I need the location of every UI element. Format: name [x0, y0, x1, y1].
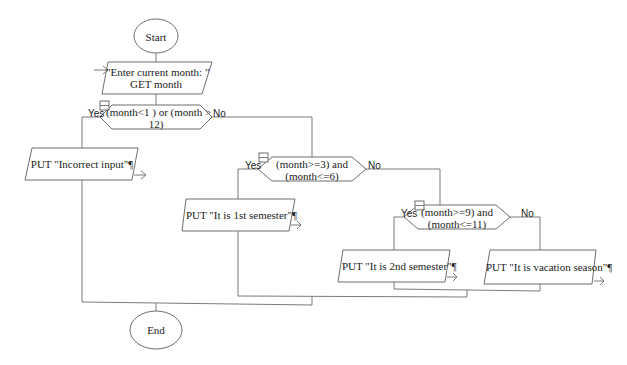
- output-arrow-icon: [447, 273, 457, 281]
- decision-3-line1: (month>=9) and: [407, 206, 507, 218]
- connector-yes-1: [82, 117, 100, 148]
- start-label: Start: [134, 31, 178, 43]
- decision-2-no: No: [368, 160, 381, 171]
- merge-line-2: [238, 296, 467, 297]
- output-3-label: PUT "It is 2nd semester"¶: [342, 260, 448, 272]
- connector-no-1: [212, 117, 312, 157]
- decision-1-no: No: [213, 108, 226, 119]
- output-arrow-icon: [291, 221, 301, 229]
- connector-no-2: [366, 169, 440, 205]
- decision-2-yes: Yes: [245, 160, 261, 171]
- connector-yes-2: [238, 169, 258, 199]
- decision-3-no: No: [521, 208, 534, 219]
- output-1-label: PUT "Incorrect input"¶: [30, 158, 134, 170]
- decision-3-yes: Yes: [401, 208, 417, 219]
- decision-2-line2: (month<=6): [262, 170, 362, 182]
- decision-1-line1: (month<1 ) or (month >: [106, 106, 206, 118]
- input-line1: "Enter current month: ": [106, 66, 206, 78]
- decision-2-line1: (month>=3) and: [262, 158, 362, 170]
- input-line2: GET month: [106, 78, 206, 90]
- decision-1-yes: Yes: [88, 108, 104, 119]
- decision-1-line2: 12): [106, 118, 206, 130]
- flowchart-canvas: [0, 0, 627, 365]
- output-arrow-icon: [134, 171, 146, 179]
- merge-line-1: [82, 302, 312, 305]
- connector-no-3: [510, 217, 540, 250]
- connector-yes-3: [394, 217, 404, 250]
- decision-3-line2: (month<=11): [407, 218, 507, 230]
- output-arrow-icon: [594, 277, 604, 285]
- output-4-label: PUT "It is vacation season"¶: [486, 261, 594, 273]
- output-2-label: PUT "It is 1st semester"¶: [186, 209, 292, 221]
- end-label: End: [132, 324, 180, 336]
